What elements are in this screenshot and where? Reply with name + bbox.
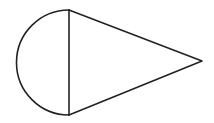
semicircle-triangle-diagram [0,0,214,123]
triangle-sides [69,10,202,115]
semicircle-arc [17,10,70,115]
geometry-figure [0,0,214,123]
